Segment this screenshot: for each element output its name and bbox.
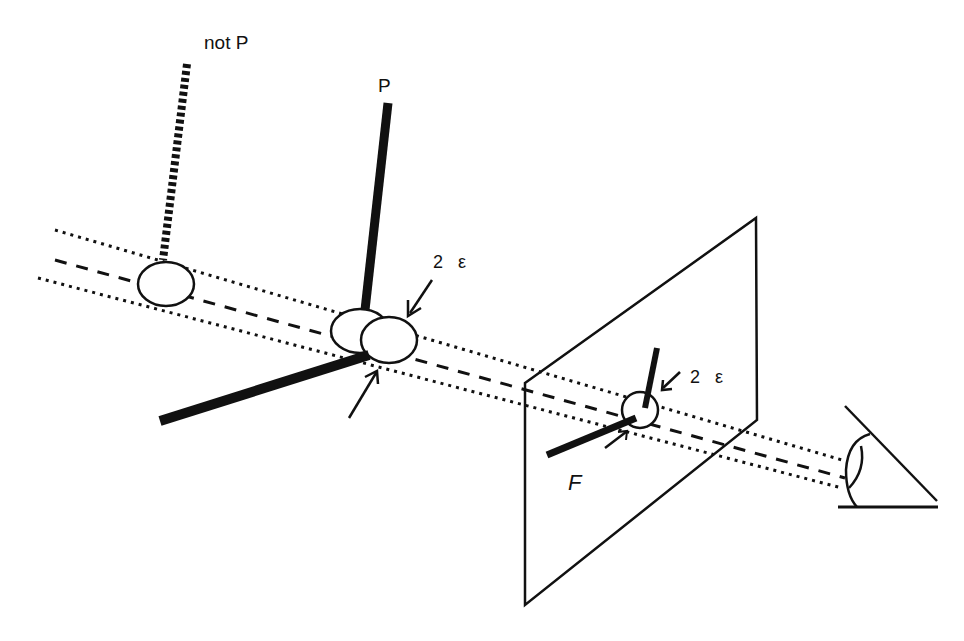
- label-p: P: [378, 75, 391, 97]
- label-figure-f: F: [568, 470, 581, 496]
- not-p-ellipse: [138, 262, 194, 306]
- p-diagonal-bar: [160, 355, 369, 421]
- label-not-p: not P: [204, 32, 248, 54]
- label-epsilon-plane: 2 ε: [690, 367, 728, 388]
- epsilon-arrow-bottom: [349, 373, 376, 418]
- plane-epsilon-arrow-bottom: [605, 432, 626, 448]
- projected-diagonal-bar: [547, 418, 636, 455]
- p-vertical-bar: [365, 103, 388, 310]
- diagram-canvas: [0, 0, 964, 641]
- plane-epsilon-arrow-top: [663, 372, 680, 388]
- p-ellipse-front: [361, 317, 417, 363]
- not-p-dashed-bar: [163, 64, 187, 260]
- label-epsilon-top: 2 ε: [433, 252, 471, 273]
- eye-globe-arc: [846, 434, 870, 507]
- eye-cone-upper: [845, 406, 937, 501]
